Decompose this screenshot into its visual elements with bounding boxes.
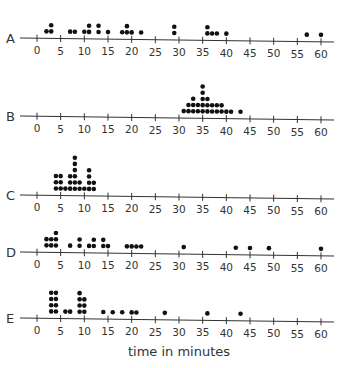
- tick-label: 25: [149, 203, 162, 215]
- data-dot: [215, 31, 220, 36]
- series-label-e: E: [6, 311, 14, 326]
- data-dot: [101, 244, 106, 249]
- data-dot: [73, 180, 78, 185]
- data-dot: [319, 247, 324, 252]
- tick-label: 55: [291, 262, 304, 274]
- data-dot: [234, 245, 239, 250]
- data-dot: [191, 97, 196, 102]
- data-dot: [82, 30, 87, 35]
- data-dot: [77, 180, 82, 185]
- data-dot: [125, 244, 130, 249]
- data-dot: [54, 174, 59, 179]
- data-dot: [49, 297, 54, 302]
- tick-label: 35: [196, 46, 209, 58]
- tick-label: 50: [267, 47, 280, 59]
- data-dot: [49, 309, 54, 314]
- data-dot: [219, 103, 224, 108]
- data-dot: [92, 244, 97, 249]
- data-dot: [200, 84, 205, 89]
- tick-label: 15: [101, 45, 114, 57]
- data-dot: [49, 23, 54, 28]
- tick-label: 15: [101, 325, 114, 337]
- tick-label: 5: [57, 259, 64, 271]
- data-dot: [68, 180, 73, 185]
- tick-label: 50: [267, 261, 280, 273]
- tick-label: 35: [196, 124, 209, 136]
- data-dot: [205, 311, 210, 316]
- tick-label: 10: [78, 202, 91, 214]
- data-dot: [73, 186, 78, 191]
- data-dot: [125, 30, 130, 35]
- data-dot: [319, 33, 324, 38]
- tick-label: 15: [101, 123, 114, 135]
- tick-label: 20: [125, 123, 138, 135]
- series-label-a: A: [6, 31, 15, 46]
- data-dot: [129, 244, 134, 249]
- tick-label: 60: [314, 328, 327, 340]
- tick-label: 40: [220, 47, 233, 59]
- axis-line-a: [20, 38, 334, 42]
- data-dot: [110, 310, 115, 315]
- tick-label: 55: [291, 48, 304, 60]
- tick-label: 10: [78, 325, 91, 337]
- tick-label: 50: [267, 204, 280, 216]
- tick-label: 15: [101, 202, 114, 214]
- data-dot: [82, 303, 87, 308]
- data-dot: [87, 174, 92, 179]
- data-dot: [205, 97, 210, 102]
- data-dot: [200, 97, 205, 102]
- tick-label: 60: [314, 126, 327, 138]
- data-dot: [191, 103, 196, 108]
- dot-plots-svg: A051015202530354045505560B05101520253035…: [0, 0, 344, 368]
- data-dot: [248, 246, 253, 251]
- data-dot: [191, 109, 196, 114]
- tick-label: 20: [125, 202, 138, 214]
- data-dot: [44, 29, 49, 34]
- tick-label: 0: [34, 122, 41, 134]
- data-dot: [58, 180, 63, 185]
- data-dot: [186, 103, 191, 108]
- data-dot: [73, 29, 78, 34]
- tick-label: 30: [172, 260, 185, 272]
- data-dot: [77, 291, 82, 296]
- data-dot: [87, 23, 92, 28]
- tick-label: 0: [34, 201, 41, 213]
- data-dot: [73, 168, 78, 173]
- tick-label: 40: [220, 327, 233, 339]
- data-dot: [54, 243, 59, 248]
- data-dot: [205, 31, 210, 36]
- data-dot: [77, 237, 82, 242]
- data-dot: [129, 310, 134, 315]
- data-dot: [96, 30, 101, 35]
- data-dot: [238, 110, 243, 115]
- data-dot: [205, 103, 210, 108]
- data-dot: [77, 309, 82, 314]
- data-dot: [106, 244, 111, 249]
- data-dot: [96, 24, 101, 29]
- data-dot: [54, 303, 59, 308]
- tick-label: 35: [196, 203, 209, 215]
- tick-label: 40: [220, 261, 233, 273]
- data-dot: [82, 310, 87, 315]
- data-dot: [49, 29, 54, 34]
- data-dot: [163, 311, 168, 316]
- tick-label: 5: [57, 123, 64, 135]
- data-dot: [68, 309, 73, 314]
- tick-label: 45: [243, 261, 256, 273]
- data-dot: [238, 312, 243, 317]
- data-dot: [186, 109, 191, 114]
- tick-label: 30: [172, 203, 185, 215]
- data-dot: [134, 244, 139, 249]
- data-dot: [77, 243, 82, 248]
- tick-label: 50: [267, 125, 280, 137]
- tick-label: 0: [34, 258, 41, 270]
- tick-label: 25: [149, 46, 162, 58]
- data-dot: [82, 187, 87, 192]
- data-dot: [120, 30, 125, 35]
- tick-label: 20: [125, 45, 138, 57]
- data-dot: [54, 291, 59, 296]
- tick-label: 45: [243, 327, 256, 339]
- data-dot: [87, 180, 92, 185]
- tick-label: 0: [34, 324, 41, 336]
- data-dot: [54, 180, 59, 185]
